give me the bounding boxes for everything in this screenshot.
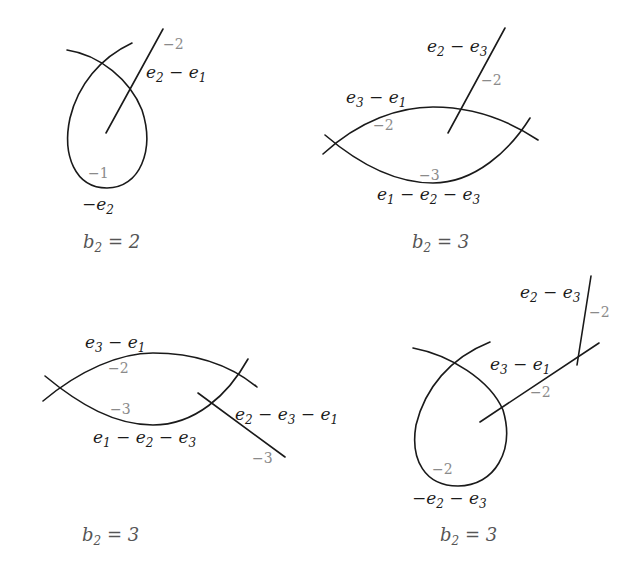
curve-label: e2 − e1	[146, 62, 206, 85]
curve-label: e3 − e1	[490, 354, 550, 377]
curve-label: −e2	[82, 194, 114, 217]
weight-label: −1	[88, 165, 109, 181]
diagram-bottom-right: e2 − e3 −2 e3 − e1 −2 −2 −e2 − e3 b2 = 3	[412, 276, 610, 548]
curve-label: e2 − e3	[520, 282, 581, 305]
caption: b2 = 2	[83, 231, 140, 255]
diagram-bottom-left: e3 − e1 −2 −3 e1 − e2 − e3 e2 − e3 − e1 …	[43, 332, 338, 548]
weight-label: −2	[481, 72, 502, 88]
lower-arc	[45, 359, 248, 425]
weight-label: −3	[252, 450, 273, 466]
caption: b2 = 3	[82, 524, 139, 548]
weight-label: −3	[419, 167, 440, 183]
curve-label: e3 − e1	[346, 87, 406, 110]
upper-arc	[43, 353, 257, 401]
weight-label: −2	[163, 36, 184, 52]
diagram-canvas: −2 e2 − e1 −1 −e2 b2 = 2 e2 − e3 −2 e3 −…	[0, 0, 641, 574]
curve-label: e1 − e2 − e3	[377, 184, 481, 207]
caption: b2 = 3	[440, 524, 497, 548]
weight-label: −2	[432, 461, 453, 477]
line-curve	[577, 276, 591, 365]
weight-label: −2	[530, 384, 551, 400]
curve-label: e2 − e3 − e1	[235, 404, 338, 427]
diagram-top-right: e2 − e3 −2 e3 − e1 −2 −3 e1 − e2 − e3 b2…	[323, 28, 538, 255]
upper-arc	[323, 107, 538, 154]
curve-label: e2 − e3	[427, 36, 488, 59]
weight-label: −3	[110, 401, 131, 417]
curve-label: −e2 − e3	[412, 488, 487, 511]
curve-label: e1 − e2 − e3	[93, 427, 197, 450]
diagram-top-left: −2 e2 − e1 −1 −e2 b2 = 2	[67, 29, 206, 255]
weight-label: −2	[108, 360, 129, 376]
curve-label: e3 − e1	[85, 332, 145, 355]
weight-label: −2	[589, 304, 610, 320]
line-curve	[198, 393, 285, 457]
weight-label: −2	[373, 117, 394, 133]
caption: b2 = 3	[412, 231, 469, 255]
